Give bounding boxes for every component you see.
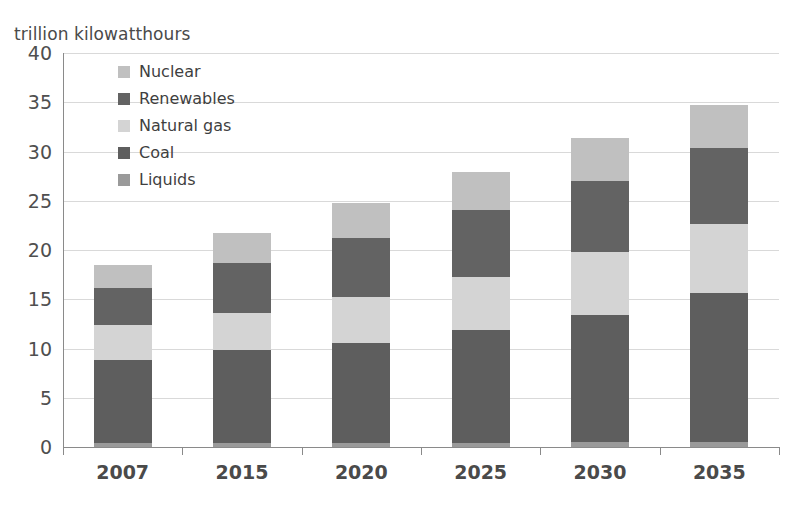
- legend-label: Renewables: [139, 91, 235, 107]
- legend-label: Liquids: [139, 172, 196, 188]
- stacked-bar: [452, 172, 510, 447]
- stacked-bar: [94, 265, 152, 447]
- bar-segment-liquids: [452, 443, 510, 447]
- bar-segment-liquids: [94, 443, 152, 447]
- bar-segment-coal: [332, 343, 390, 443]
- stacked-bar: [690, 105, 748, 447]
- stacked-bar-chart: trillion kilowatthours 0510152025303540 …: [0, 0, 789, 514]
- legend-item-natural-gas[interactable]: Natural gas: [118, 116, 235, 135]
- x-axis-label-2025: 2025: [454, 461, 507, 483]
- x-axis-label-2007: 2007: [96, 461, 149, 483]
- bar-segment-coal: [94, 360, 152, 443]
- bar-group-2025: [421, 53, 540, 447]
- bar-segment-nuclear: [452, 172, 510, 209]
- x-axis-tick: [182, 447, 183, 455]
- y-axis-title: trillion kilowatthours: [14, 24, 190, 44]
- x-axis-label-2035: 2035: [693, 461, 746, 483]
- y-axis-tick-label: 0: [40, 436, 52, 458]
- bar-segment-renewables: [94, 288, 152, 324]
- y-axis-tick-label: 30: [28, 141, 52, 163]
- legend-swatch-icon-liquids: [118, 174, 130, 186]
- legend-swatch-icon-coal: [118, 147, 130, 159]
- legend-swatch-icon-nuclear: [118, 66, 130, 78]
- x-axis-label-2015: 2015: [216, 461, 269, 483]
- bar-segment-natural-gas: [332, 297, 390, 342]
- stacked-bar: [332, 203, 390, 447]
- stacked-bar: [571, 138, 629, 447]
- y-axis-tick-label: 35: [28, 91, 52, 113]
- x-axis-tick: [540, 447, 541, 455]
- x-axis-tick: [63, 447, 64, 455]
- y-axis-tick-label: 5: [40, 387, 52, 409]
- bar-segment-nuclear: [690, 105, 748, 147]
- bar-segment-nuclear: [332, 203, 390, 238]
- bar-segment-liquids: [213, 443, 271, 447]
- x-axis-tick: [660, 447, 661, 455]
- y-axis-tick-label: 10: [28, 338, 52, 360]
- x-axis-label-2030: 2030: [574, 461, 627, 483]
- x-axis-label-2020: 2020: [335, 461, 388, 483]
- bar-segment-renewables: [571, 181, 629, 252]
- y-axis-tick-label: 20: [28, 239, 52, 261]
- x-axis-tick: [779, 447, 780, 455]
- bar-segment-coal: [690, 293, 748, 442]
- legend-item-renewables[interactable]: Renewables: [118, 89, 235, 108]
- bar-group-2035: [660, 53, 779, 447]
- legend-item-coal[interactable]: Coal: [118, 143, 235, 162]
- bar-segment-nuclear: [213, 233, 271, 263]
- stacked-bar: [213, 233, 271, 447]
- bar-segment-liquids: [690, 442, 748, 447]
- bar-segment-renewables: [452, 210, 510, 277]
- legend-label: Natural gas: [139, 118, 231, 134]
- x-axis-tick: [421, 447, 422, 455]
- legend-item-nuclear[interactable]: Nuclear: [118, 62, 235, 81]
- bar-segment-renewables: [690, 148, 748, 225]
- y-axis-tick-label: 40: [28, 42, 52, 64]
- bar-segment-liquids: [571, 442, 629, 447]
- bar-group-2020: [302, 53, 421, 447]
- y-axis-tick-label: 25: [28, 190, 52, 212]
- legend-swatch-icon-renewables: [118, 93, 130, 105]
- bar-segment-renewables: [332, 238, 390, 297]
- bar-segment-coal: [571, 315, 629, 442]
- bar-segment-coal: [213, 350, 271, 443]
- bar-segment-nuclear: [94, 265, 152, 289]
- y-axis-tick-label: 15: [28, 288, 52, 310]
- bar-segment-natural-gas: [452, 277, 510, 330]
- legend-swatch-icon-natural-gas: [118, 120, 130, 132]
- bar-segment-natural-gas: [213, 313, 271, 350]
- bar-segment-natural-gas: [690, 224, 748, 293]
- legend-label: Nuclear: [139, 64, 201, 80]
- bar-group-2030: [540, 53, 659, 447]
- legend-item-liquids[interactable]: Liquids: [118, 170, 235, 189]
- bar-segment-coal: [452, 330, 510, 443]
- bar-segment-natural-gas: [94, 325, 152, 360]
- chart-legend: NuclearRenewablesNatural gasCoalLiquids: [118, 62, 235, 189]
- legend-label: Coal: [139, 145, 174, 161]
- bar-segment-renewables: [213, 263, 271, 313]
- bar-segment-nuclear: [571, 138, 629, 181]
- bar-segment-natural-gas: [571, 252, 629, 315]
- x-axis-tick: [302, 447, 303, 455]
- bar-segment-liquids: [332, 443, 390, 447]
